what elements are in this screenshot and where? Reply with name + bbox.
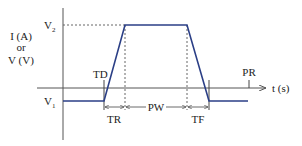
pr-label: PR <box>242 66 256 78</box>
x-axis-label: t (s) <box>272 82 290 95</box>
v1-subscript: 1 <box>52 102 56 110</box>
y-axis-label-line2: or <box>16 41 26 53</box>
pulse-waveform <box>63 25 248 101</box>
v2-label: V <box>44 19 52 31</box>
tr-label: TR <box>107 113 122 125</box>
tf-label: TF <box>192 113 205 125</box>
td-label: TD <box>93 68 108 80</box>
pw-label: PW <box>148 101 165 113</box>
y-axis-label-line3: V (V) <box>8 54 34 67</box>
v1-label: V <box>44 95 52 107</box>
pulse-diagram: I (A) or V (V) V 2 V 1 TD TR PW TF PR t … <box>0 0 302 146</box>
v2-subscript: 2 <box>52 26 56 34</box>
